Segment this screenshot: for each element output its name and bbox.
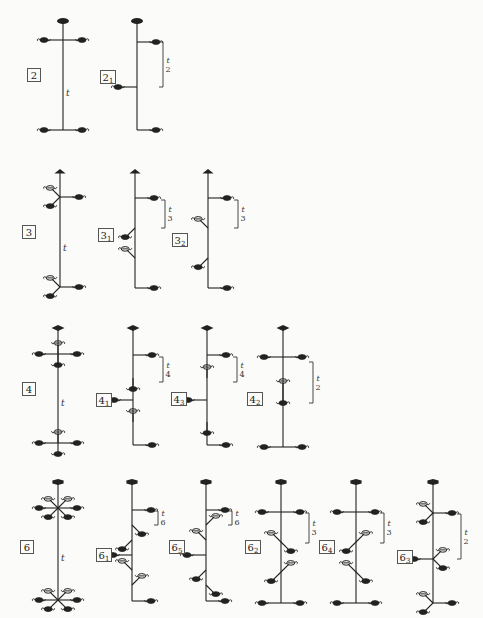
axis-label-box-4: 4: [22, 382, 36, 396]
axis-element-2: [37, 18, 88, 132]
axis-label-box-6_4: 64: [319, 540, 335, 554]
axis-element-4_1: [107, 325, 163, 447]
fraction-denominator: 6: [233, 518, 241, 527]
motif-icon: [191, 265, 204, 270]
screw-subscript: 2: [254, 547, 258, 555]
axis-label-box-6_5: 65: [169, 540, 185, 554]
axis-order: 3: [26, 227, 32, 238]
fraction-numerator: t: [239, 205, 247, 214]
motif-icon: [264, 531, 277, 536]
axis-element-6_4: [330, 479, 384, 605]
motif-icon: [71, 506, 84, 511]
fraction-numerator: t: [166, 205, 174, 214]
motif-icon: [209, 592, 222, 597]
motif-icon: [61, 607, 74, 612]
motif-icon: [145, 599, 158, 604]
motif-icon: [43, 276, 56, 281]
axis-label-box-2: 2: [27, 68, 41, 82]
axis-label-box-3_1: 31: [98, 228, 114, 242]
axis-label-box-6_2: 62: [245, 540, 261, 554]
fraction-numerator: t: [159, 509, 167, 518]
fraction-denominator: 4: [164, 370, 172, 379]
axis-order: 6: [24, 542, 30, 553]
translation-bracket: [305, 513, 309, 543]
period-t-label: t: [61, 398, 65, 408]
translation-bracket: [380, 513, 384, 543]
axis-element-6_3: [407, 479, 461, 614]
fraction-numerator: t: [462, 528, 470, 537]
motif-icon: [294, 601, 307, 606]
motif-icon: [37, 38, 50, 43]
translation-bracket: [228, 511, 232, 525]
axis-label-box-6: 6: [20, 540, 34, 554]
axis-label-box-4_3: 43: [171, 392, 187, 406]
motif-icon: [135, 532, 148, 537]
screw-subscript: 1: [105, 400, 109, 408]
motif-icon: [135, 574, 148, 579]
motif-icon: [359, 579, 372, 584]
fraction-numerator: t: [238, 361, 246, 370]
motif-icon: [416, 502, 429, 507]
screw-subscript: 3: [180, 399, 184, 407]
motif-icon: [339, 549, 352, 554]
motif-icon: [446, 511, 459, 516]
motif-icon: [255, 601, 268, 606]
motif-icon: [32, 506, 45, 511]
motif-icon: [118, 235, 131, 240]
axis-order: 4: [26, 384, 32, 395]
motif-icon: [436, 548, 449, 553]
motif-icon: [61, 589, 74, 594]
motif-icon: [146, 443, 159, 448]
axis-element-6_1: [106, 479, 158, 603]
motif-icon: [416, 592, 429, 597]
period-t-label: t: [61, 553, 65, 563]
fraction-numerator: t: [310, 519, 318, 528]
fraction-numerator: t: [233, 509, 241, 518]
motif-icon: [115, 547, 128, 552]
motif-icon: [148, 196, 161, 201]
motif-icon: [115, 559, 128, 564]
motif-icon: [61, 497, 74, 502]
axis-element-4: [32, 325, 83, 456]
motif-icon: [284, 549, 297, 554]
motif-icon: [32, 352, 45, 357]
screw-subscript: 4: [328, 547, 332, 555]
motif-icon: [71, 598, 84, 603]
motif-icon: [294, 510, 307, 515]
motif-icon: [220, 353, 233, 358]
translation-bracket: [457, 514, 461, 559]
motif-icon: [221, 196, 234, 201]
motif-icon: [201, 431, 214, 436]
fraction-numerator: t: [164, 361, 172, 370]
translation-bracket: [161, 200, 165, 228]
axis-element-4_2: [257, 325, 313, 449]
motif-icon: [330, 601, 343, 606]
fraction-numerator: t: [385, 519, 393, 528]
axis-label-box-6_1: 61: [96, 548, 112, 562]
axis-element-3: [43, 169, 85, 298]
motif-icon: [41, 497, 54, 502]
motif-icon: [255, 510, 268, 515]
screw-subscript: 1: [109, 77, 113, 85]
axis-element-6: [32, 479, 83, 611]
translation-bracket: [233, 357, 237, 382]
motif-icon: [52, 452, 65, 457]
translation-fraction: t6: [159, 509, 167, 527]
axis-label-box-4_1: 41: [96, 393, 112, 407]
motif-icon: [145, 508, 158, 513]
motif-icon: [43, 186, 56, 191]
fraction-numerator: t: [314, 374, 322, 383]
fraction-denominator: 3: [310, 528, 318, 537]
motif-icon: [369, 510, 382, 515]
fraction-denominator: 3: [166, 214, 174, 223]
motif-icon: [32, 598, 45, 603]
period-t-label: t: [66, 88, 70, 98]
axis-label-box-3_2: 32: [172, 233, 188, 247]
axis-order: 2: [31, 70, 37, 81]
motif-icon: [127, 387, 140, 392]
motif-icon: [284, 561, 297, 566]
motif-icon: [150, 128, 163, 133]
screw-subscript: 1: [105, 555, 109, 563]
axis-label-box-4_2: 42: [247, 392, 263, 406]
motif-icon: [416, 520, 429, 525]
